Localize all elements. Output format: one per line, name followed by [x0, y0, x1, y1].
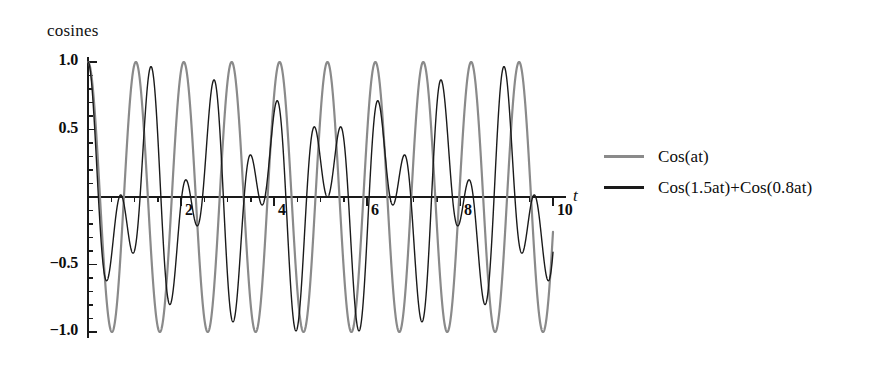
x-tick-label: 4 [278, 201, 286, 219]
y-tick-label: 1.0 [24, 51, 78, 69]
x-tick-label: 2 [185, 201, 193, 219]
legend-swatch-icon-gray [604, 155, 644, 158]
x-tick-label: 8 [464, 201, 472, 219]
legend: Cos(at) Cos(1.5at)+Cos(0.8at) [604, 141, 879, 203]
legend-label-cos-sum: Cos(1.5at)+Cos(0.8at) [658, 178, 812, 198]
y-tick-label: 0.5 [24, 119, 78, 137]
y-tick-label: −1.0 [24, 321, 78, 339]
legend-entry-cos-at: Cos(at) [604, 141, 879, 172]
legend-swatch-icon-black [604, 186, 644, 189]
cosines-plot-figure: cosines t 1.00.5−0.5−1.0246810 Cos(at) C… [0, 0, 883, 376]
x-tick-label: 10 [557, 201, 573, 219]
y-tick-label: −0.5 [24, 254, 78, 272]
legend-entry-cos-sum: Cos(1.5at)+Cos(0.8at) [604, 172, 879, 203]
x-tick-label: 6 [371, 201, 379, 219]
legend-label-cos-at: Cos(at) [658, 147, 709, 167]
